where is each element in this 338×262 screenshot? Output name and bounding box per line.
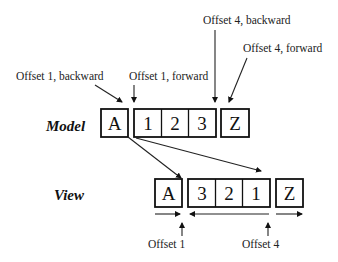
svg-text:A: A [108,113,122,134]
arrow-offset4-forward [229,58,247,102]
label-offset1-forward: Offset 1, forward [129,70,209,83]
svg-text:2: 2 [170,113,180,134]
model-cells-123: 1 2 3 [134,109,216,137]
view-cell-a: A [155,179,182,207]
row-label-view: View [54,187,85,203]
svg-text:1: 1 [143,113,153,134]
arrow-model-123-to-view [136,138,261,171]
label-offset4-forward: Offset 4, forward [243,42,323,55]
svg-text:A: A [162,183,176,204]
svg-text:1: 1 [251,183,261,204]
label-offset4: Offset 4 [242,238,279,250]
label-offset1: Offset 1 [148,238,185,250]
view-cells-321: 3 2 1 [188,179,270,207]
label-offset1-backward: Offset 1, backward [16,70,104,83]
svg-text:3: 3 [197,183,207,204]
svg-text:Z: Z [229,113,241,134]
svg-text:Z: Z [284,183,296,204]
label-offset4-backward: Offset 4, backward [203,14,291,27]
model-cell-a: A [101,109,128,137]
svg-text:2: 2 [224,183,234,204]
model-cell-z: Z [221,109,249,137]
view-cell-z: Z [276,179,303,207]
model-view-diagram: Offset 4, backward Offset 4, forward Off… [0,0,338,262]
arrow-offset1-backward [95,85,122,102]
svg-text:3: 3 [197,113,207,134]
row-label-model: Model [45,118,86,134]
